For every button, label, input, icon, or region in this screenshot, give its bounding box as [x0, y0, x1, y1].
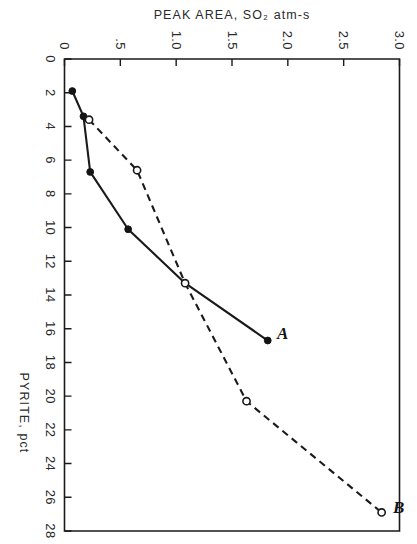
- y-tick-label: 2.5: [336, 31, 351, 50]
- x-tick-label: 8: [42, 190, 57, 198]
- data-point-a: [264, 337, 271, 344]
- series-line-a: [72, 91, 267, 340]
- x-tick-label: 14: [42, 287, 57, 302]
- data-point-a: [86, 169, 93, 176]
- x-axis-ticks: 0246810121416182022242628: [42, 55, 71, 538]
- x-tick-label: 28: [42, 523, 57, 538]
- figure-screenshot: 0246810121416182022242628 0.51.01.52.02.…: [0, 0, 417, 544]
- axis-titles: ABPYRITE, pctPEAK AREA, SO₂ atm-s: [16, 8, 404, 517]
- data-point-b: [85, 116, 92, 123]
- chart-plot: 0246810121416182022242628 0.51.01.52.02.…: [0, 0, 417, 544]
- y-axis-title: PEAK AREA, SO₂ atm-s: [153, 8, 310, 22]
- y-tick-label: 1.0: [168, 31, 183, 50]
- curve-label-a: A: [276, 324, 288, 343]
- x-tick-label: 0: [42, 55, 57, 63]
- x-tick-label: 16: [42, 321, 57, 336]
- rotated-chart-container: 0246810121416182022242628 0.51.01.52.02.…: [0, 0, 417, 544]
- x-tick-label: 2: [42, 89, 57, 97]
- x-tick-label: 26: [42, 490, 57, 505]
- x-tick-label: 10: [42, 220, 57, 235]
- y-tick-label: 1.5: [224, 31, 239, 50]
- data-point-a: [124, 226, 131, 233]
- x-tick-label: 24: [42, 456, 57, 471]
- x-tick-label: 22: [42, 422, 57, 437]
- data-point-b: [378, 509, 385, 516]
- data-point-a: [68, 88, 75, 95]
- x-tick-label: 6: [42, 156, 57, 164]
- data-point-b: [181, 280, 188, 287]
- data-point-b: [242, 398, 249, 405]
- y-tick-label: 2.0: [280, 31, 295, 50]
- x-axis-title: PYRITE, pct: [16, 373, 30, 454]
- x-tick-label: 18: [42, 355, 57, 370]
- y-tick-label: 3.0: [392, 31, 407, 50]
- y-axis-ticks: 0.51.01.52.02.53.0: [57, 31, 407, 66]
- series-line-b: [89, 120, 382, 513]
- x-tick-label: 12: [42, 254, 57, 269]
- y-tick-label: 0: [57, 42, 72, 50]
- plot-frame: [64, 59, 399, 531]
- data-series: [68, 88, 384, 516]
- x-tick-label: 4: [42, 123, 57, 131]
- x-tick-label: 20: [42, 389, 57, 404]
- y-tick-label: .5: [112, 38, 127, 50]
- axes: [64, 59, 399, 531]
- curve-label-b: B: [391, 498, 403, 517]
- data-point-b: [133, 167, 140, 174]
